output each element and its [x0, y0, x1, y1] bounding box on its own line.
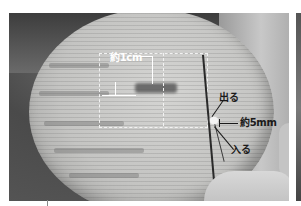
- crop-mark: [47, 200, 48, 206]
- dashed-guide-line: [163, 53, 164, 126]
- fabric-stripe: [54, 148, 144, 153]
- adjacent-photo-edge: [296, 13, 301, 201]
- stitch-spacing-label: 約5mm: [240, 118, 277, 128]
- darning-photo: 約1cm 出る 約5mm 入る: [9, 13, 289, 201]
- width-label: 約1cm: [110, 53, 142, 63]
- spacing-leader: [220, 123, 238, 124]
- in-label: 入る: [231, 145, 250, 155]
- measure-bracket: [102, 95, 136, 96]
- fabric-stripe: [69, 173, 139, 178]
- out-label: 出る: [219, 93, 238, 103]
- stitch-point: [210, 117, 218, 124]
- hand-finger: [279, 123, 289, 178]
- measure-bracket: [152, 56, 153, 84]
- hand: [204, 171, 289, 201]
- measure-bracket: [115, 82, 116, 95]
